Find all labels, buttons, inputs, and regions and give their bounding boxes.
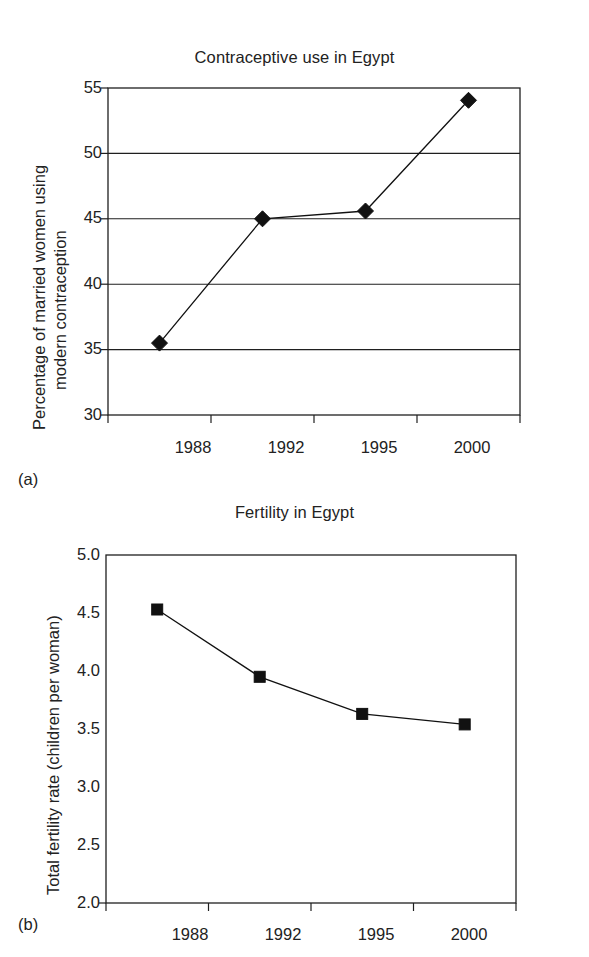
chart-a-point-1992 xyxy=(255,211,271,227)
chart-panel-a: Contraceptive use in Egypt (a) Percentag… xyxy=(0,40,589,495)
chart-a-gridlines xyxy=(108,153,520,349)
chart-panel-b: Fertility in Egypt (b) Total fertility r… xyxy=(0,495,589,957)
chart-b-plot-frame xyxy=(106,555,516,903)
chart-a-plot-frame xyxy=(108,88,520,415)
figure-container: Contraceptive use in Egypt (a) Percentag… xyxy=(0,0,589,957)
chart-a-x-tickmarks xyxy=(108,415,520,423)
chart-a-plot xyxy=(0,40,589,495)
chart-b-point-1995 xyxy=(357,708,368,719)
chart-b-point-1988 xyxy=(152,604,163,615)
chart-b-plot xyxy=(0,495,589,957)
chart-a-y-tickmarks xyxy=(101,88,108,415)
chart-a-series-line xyxy=(160,100,469,343)
chart-b-point-2000 xyxy=(459,719,470,730)
chart-a-markers xyxy=(152,92,477,351)
chart-a-point-1988 xyxy=(152,335,168,351)
chart-b-x-tickmarks xyxy=(106,903,516,911)
chart-b-markers xyxy=(152,604,471,730)
chart-b-series-line xyxy=(157,610,465,725)
chart-b-point-1992 xyxy=(254,671,265,682)
